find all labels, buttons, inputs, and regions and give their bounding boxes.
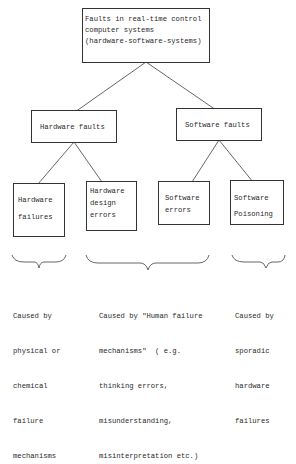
- root-line-2: computer systems: [85, 25, 209, 36]
- root-node: Faults in real-time control computer sys…: [82, 8, 210, 63]
- edge-root-hardware: [75, 62, 146, 112]
- cause-human-line-5: misinterpretation etc.): [99, 451, 203, 463]
- cause-physical-line-4: failure: [13, 416, 60, 428]
- software-errors-node: Software errors: [158, 181, 210, 225]
- hardware-design-line-1: Hardware: [90, 186, 136, 198]
- cause-sporadic-line-4: failures: [235, 416, 274, 428]
- cause-physical-line-1: Caused by: [13, 311, 60, 323]
- cause-human-line-3: thinking errors,: [99, 381, 203, 393]
- brace-human-failure: [86, 255, 209, 270]
- root-line-3: (hardware-software-systems): [85, 36, 209, 47]
- cause-human-line-1: Caused by "Human failure: [99, 311, 203, 323]
- software-poisoning-line-2: Poisoning: [234, 207, 283, 223]
- hardware-faults-label: Hardware faults: [40, 122, 116, 133]
- edge-sw-poisoning: [219, 140, 253, 182]
- hardware-failures-line-2: failures: [18, 209, 64, 226]
- cause-human-failure: Caused by "Human failure mechanisms" ( e…: [99, 288, 203, 464]
- software-poisoning-line-1: Software: [234, 191, 283, 207]
- cause-physical-line-3: chemical: [13, 381, 60, 393]
- brace-hardware-failures: [12, 255, 66, 268]
- hardware-design-line-3: errors: [90, 210, 136, 222]
- cause-sporadic-line-2: sporadic: [235, 346, 274, 358]
- cause-human-line-4: misunderstanding,: [99, 416, 203, 428]
- hardware-design-line-2: design: [90, 198, 136, 210]
- edge-hw-failures: [38, 142, 74, 184]
- edge-sw-errors: [192, 140, 219, 182]
- edge-root-software: [146, 62, 216, 110]
- hardware-faults-node: Hardware faults: [31, 110, 117, 143]
- hardware-design-errors-node: Hardware design errors: [86, 181, 137, 231]
- hardware-failures-node: Hardware failures: [13, 183, 65, 237]
- cause-sporadic-line-1: Caused by: [235, 311, 274, 323]
- cause-sporadic: Caused by sporadic hardware failures: [235, 288, 274, 440]
- cause-physical-line-2: physical or: [13, 346, 60, 358]
- software-errors-line-2: errors: [165, 204, 209, 216]
- software-faults-node: Software faults: [176, 108, 262, 141]
- software-poisoning-node: Software Poisoning: [230, 180, 284, 225]
- root-line-1: Faults in real-time control: [85, 14, 209, 25]
- cause-physical-line-5: mechanisms: [13, 451, 60, 463]
- software-errors-line-1: Software: [165, 192, 209, 204]
- brace-sporadic: [232, 255, 285, 268]
- cause-human-line-2: mechanisms" ( e.g.: [99, 346, 203, 358]
- edge-hw-design: [74, 142, 102, 182]
- cause-physical: Caused by physical or chemical failure m…: [13, 288, 60, 464]
- hardware-failures-line-1: Hardware: [18, 192, 64, 209]
- cause-sporadic-line-3: hardware: [235, 381, 274, 393]
- software-faults-label: Software faults: [185, 120, 261, 131]
